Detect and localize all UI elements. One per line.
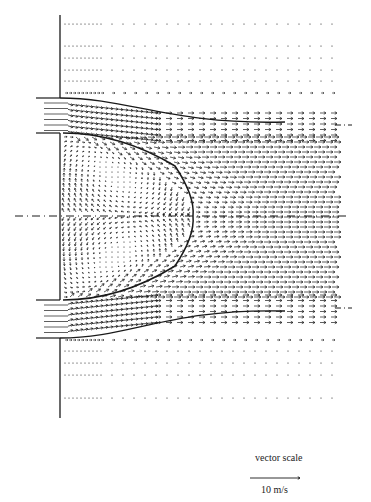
vector-scale-arrow: [250, 477, 300, 480]
vector-scale-value: 10 m/s: [261, 484, 288, 495]
core-vectors: [62, 136, 341, 299]
vector-scale-title: vector scale: [255, 452, 302, 463]
vector-field-figure: [0, 0, 371, 502]
